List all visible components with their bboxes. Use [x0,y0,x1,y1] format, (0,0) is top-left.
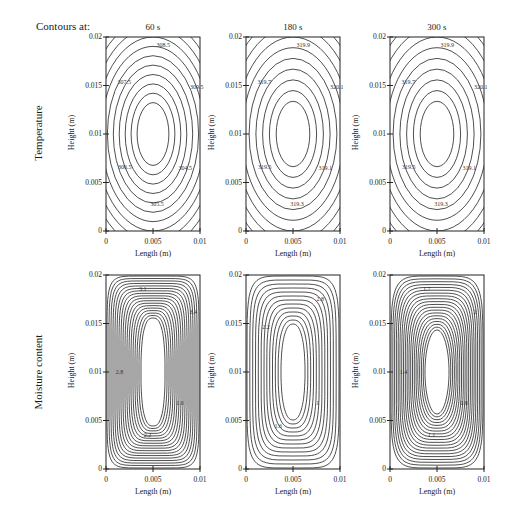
y-tick-label: 0.01 [76,129,102,138]
x-tick-label: 0.005 [138,237,168,246]
y-tick-label: 0.01 [76,367,102,376]
x-tick-label: 0 [231,237,261,246]
contour-label: 1.7 [423,286,431,292]
x-tick-label: 0.01 [469,237,499,246]
y-tick-label: 0.02 [360,270,386,279]
contour-label: 1.6 [275,423,283,429]
contour-label: 1.4 [400,369,408,375]
contour-plot: 319.1319.3319.5319.7319.9320.1 [390,37,484,231]
contour-plot: 319.1319.3319.5319.7319.9320.1 [246,37,340,231]
contour-label: 319.1 [319,165,333,171]
y-axis-label: Height (m) [67,341,76,401]
contours-at-label: Contours at: [36,20,90,32]
x-tick-label: 0.01 [325,237,355,246]
y-axis-label: Height (m) [207,103,216,163]
contour-label: 308.5 [157,42,171,48]
contour-label: 319.5 [258,164,272,170]
contour-label: 319.1 [463,165,477,171]
y-tick-label: 0.01 [216,129,242,138]
row-label-temperature: Temperature [32,63,44,203]
contour-plot: 0.81.11.41.72 [390,275,484,469]
contour-label: 319.7 [258,79,272,85]
y-tick-label: 0 [216,226,242,235]
y-tick-label: 0.005 [76,178,102,187]
y-tick-label: 0 [76,464,102,473]
contour-label: 309.5 [190,84,204,90]
contour-label: 320.1 [330,84,344,90]
contour-plot: 11.62.22.8 [246,275,340,469]
y-axis-label: Height (m) [351,341,360,401]
y-tick-label: 0 [360,226,386,235]
y-tick-label: 0.015 [76,81,102,90]
contour-plot: 304.5305.5306.5307.5308.5309.5 [106,37,200,231]
contour-label: 2 [474,309,477,315]
row-label-moisture: Moisture content [32,302,44,442]
y-tick-label: 0.015 [216,81,242,90]
x-axis-label: Length (m) [397,249,477,258]
contour-label: 3.1 [139,286,147,292]
x-tick-label: 0.005 [138,475,168,484]
y-tick-label: 0.005 [216,178,242,187]
column-title-300s: 300 s [407,22,467,32]
x-tick-label: 0 [91,475,121,484]
y-tick-label: 0.015 [216,319,242,328]
contour-label: 1.6 [176,400,184,406]
column-title-180s: 180 s [263,22,323,32]
y-axis-label: Height (m) [207,341,216,401]
contour-label: 2.2 [262,324,270,330]
x-tick-label: 0.01 [325,475,355,484]
contour-label: 3.4 [190,309,198,315]
contour-label: 306.5 [118,164,131,170]
x-tick-label: 0.01 [469,475,499,484]
x-tick-label: 0.01 [185,237,215,246]
contour-label: 319.3 [290,201,304,207]
contour-label: 304.5 [179,165,193,171]
contour-label: 2.2 [144,432,152,438]
y-tick-label: 0.02 [360,32,386,41]
x-axis-label: Length (m) [253,487,333,496]
y-tick-label: 0.005 [360,416,386,425]
y-tick-label: 0 [76,226,102,235]
contour-label: 2.8 [317,296,325,302]
contour-label: 1 [316,400,319,406]
x-tick-label: 0 [231,475,261,484]
y-tick-label: 0.02 [76,32,102,41]
y-tick-label: 0 [216,464,242,473]
x-tick-label: 0 [375,475,405,484]
y-tick-label: 0.02 [76,270,102,279]
contour-label: 319.9 [297,42,311,48]
contour-label: 307.5 [118,79,132,85]
y-tick-label: 0.01 [360,129,386,138]
y-axis-label: Height (m) [67,103,76,163]
contour-label: 305.5 [150,201,164,207]
y-tick-label: 0.015 [360,81,386,90]
contour-label: 2.8 [116,369,124,375]
contour-label: 0.8 [460,400,468,406]
y-tick-label: 0.015 [360,319,386,328]
y-axis-label: Height (m) [351,103,360,163]
x-tick-label: 0 [375,237,405,246]
y-tick-label: 0.01 [216,367,242,376]
x-tick-label: 0.005 [422,475,452,484]
contour-plot: 1.62.22.83.13.4 [106,275,200,469]
y-tick-label: 0.005 [216,416,242,425]
column-title-60s: 60 s [123,22,183,32]
contour-label: 319.9 [441,42,455,48]
y-tick-label: 0 [360,464,386,473]
contour-label: 319.3 [434,201,448,207]
y-tick-label: 0.02 [216,32,242,41]
x-axis-label: Length (m) [253,249,333,258]
x-tick-label: 0 [91,237,121,246]
y-tick-label: 0.005 [76,416,102,425]
x-tick-label: 0.005 [278,475,308,484]
x-tick-label: 0.005 [422,237,452,246]
y-tick-label: 0.005 [360,178,386,187]
x-axis-label: Length (m) [397,487,477,496]
contour-label: 320.1 [474,84,488,90]
contour-label: 319.5 [402,164,416,170]
x-tick-label: 0.01 [185,475,215,484]
y-tick-label: 0.02 [216,270,242,279]
x-tick-label: 0.005 [278,237,308,246]
y-tick-label: 0.01 [360,367,386,376]
contour-label: 319.7 [402,79,416,85]
